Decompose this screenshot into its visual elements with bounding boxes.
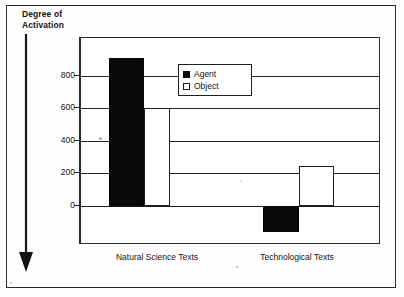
scan-speck <box>99 137 102 140</box>
scan-speck <box>10 282 12 284</box>
chart-figure: Degree of Activation 800 600 400 200 0 A… <box>0 0 404 297</box>
legend-label-object: Object <box>194 81 219 91</box>
ytick-label-800: 800 <box>45 70 75 80</box>
downward-arrow-icon <box>14 34 38 274</box>
ytick-label-400: 400 <box>45 135 75 145</box>
bar-agent-natural-science-texts <box>109 58 144 206</box>
legend: Agent Object <box>178 64 252 96</box>
legend-swatch-agent-icon <box>183 71 190 78</box>
category-label-natural-science-texts: Natural Science Texts <box>116 252 198 262</box>
scan-speck <box>236 266 238 268</box>
y-axis-title: Degree of Activation <box>22 9 64 31</box>
bar-object-natural-science-texts <box>144 108 170 206</box>
legend-swatch-object-icon <box>183 83 190 90</box>
bar-object-technological-texts <box>299 166 334 206</box>
ytick-label-200: 200 <box>45 167 75 177</box>
legend-item-object: Object <box>183 80 247 92</box>
scan-speck <box>240 180 242 182</box>
category-label-technological-texts: Technological Texts <box>260 252 334 262</box>
ytick-label-600: 600 <box>45 102 75 112</box>
gridline-zero <box>81 206 379 207</box>
legend-label-agent: Agent <box>194 69 216 79</box>
bar-agent-technological-texts <box>263 206 299 232</box>
ytick-label-0: 0 <box>45 200 75 210</box>
legend-item-agent: Agent <box>183 68 247 80</box>
